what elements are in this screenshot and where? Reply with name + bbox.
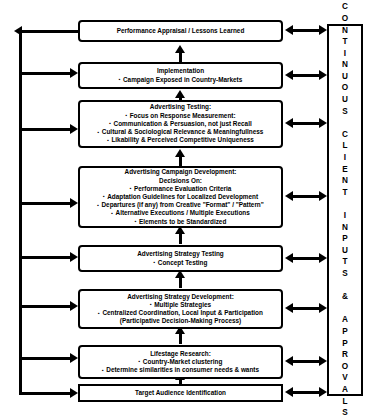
box-bullet: Adaptation Guidelines for Localized Deve… — [103, 193, 258, 201]
client-link-campaign-development — [285, 191, 327, 202]
box-bullet: Cultural & Sociological Relevance & Mean… — [98, 128, 264, 136]
flow-arrow-shaft-strategy-test-to-campaign-dev — [179, 233, 182, 244]
connector-shaft — [292, 29, 320, 32]
connector-shaft — [292, 391, 320, 394]
box-note: (Participative Decision-Making Process) — [120, 317, 241, 325]
client-link-strategy-development — [285, 303, 327, 314]
box-subtitle: Decisions On: — [159, 177, 202, 185]
box-bullet: Determine similarities in consumer needs… — [102, 366, 259, 374]
client-link-performance-appraisal — [285, 25, 327, 36]
box-lifestage-research[interactable]: Lifestage Research: Country-Market clust… — [78, 345, 283, 379]
box-implementation[interactable]: Implementation Campaign Exposed in Count… — [78, 62, 283, 89]
connector-shaft — [292, 195, 320, 198]
arrowhead-right — [319, 191, 327, 201]
box-bullet: Communication & Persuasion, not just Rec… — [109, 120, 251, 128]
client-link-advertising-testing — [285, 118, 327, 129]
box-bullet: Campaign Exposed in Country-Markets — [119, 76, 243, 84]
connector-shaft — [292, 122, 320, 125]
arrowhead-right — [319, 387, 327, 397]
arrowhead-right — [319, 253, 327, 263]
feedback-branch-advertising-testing-arrowhead — [70, 124, 78, 134]
flow-arrow-head-testing-to-implementation — [175, 90, 185, 98]
flowchart-diagram: Performance Appraisal / Lessons Learned … — [0, 0, 386, 419]
feedback-branch-strategy-testing — [19, 256, 73, 259]
box-performance-appraisal[interactable]: Performance Appraisal / Lessons Learned — [78, 20, 283, 42]
arrowhead-right — [319, 356, 327, 366]
arrowhead-right — [319, 70, 327, 80]
continuous-client-inputs-column[interactable]: C O N T I N U O U S C L I E N T I N P U … — [327, 24, 363, 396]
box-title: Advertising Strategy Development: — [127, 293, 234, 301]
box-bullet: Centralized Coordination, Local Input & … — [98, 309, 263, 317]
box-bullet: Elements to be Standardized — [135, 218, 227, 226]
feedback-branch-lifestage-research-arrowhead — [70, 353, 78, 363]
box-advertising-testing[interactable]: Advertising Testing: Focus on Response M… — [78, 100, 283, 148]
arrowhead-right — [319, 303, 327, 313]
feedback-branch-strategy-development — [19, 305, 73, 308]
client-link-target-audience — [285, 387, 327, 398]
connector-shaft — [292, 257, 320, 260]
box-title: Advertising Strategy Testing — [137, 250, 224, 258]
feedback-branch-implementation-arrowhead — [70, 68, 78, 78]
box-bullet: Country-Market clustering — [139, 358, 223, 366]
client-link-strategy-testing — [285, 253, 327, 264]
box-bullet: Alternative Executions / Multiple Execut… — [111, 209, 250, 217]
box-advertising-campaign-development[interactable]: Advertising Campaign Development: Decisi… — [78, 166, 283, 228]
feedback-loop-top-arrowhead — [14, 26, 22, 36]
arrowhead-right — [319, 25, 327, 35]
feedback-branch-campaign-development-arrowhead — [70, 198, 78, 208]
connector-shaft — [292, 74, 320, 77]
box-bullet: Performance Evaluation Criteria — [130, 185, 232, 193]
box-title: Lifestage Research: — [150, 350, 211, 358]
box-target-audience-identification[interactable]: Target Audience Identification — [78, 384, 283, 402]
flow-arrow-shaft-strategy-dev-to-strategy-test — [179, 277, 182, 288]
feedback-loop-spine — [19, 30, 22, 395]
box-advertising-strategy-development[interactable]: Advertising Strategy Development: Multip… — [78, 289, 283, 329]
connector-shaft — [292, 360, 320, 363]
flow-arrow-shaft-lifestage-to-strategy-dev — [179, 333, 182, 344]
feedback-branch-lifestage-research — [19, 357, 73, 360]
continuous-client-inputs-label: C O N T I N U O U S C L I E N T I N P U … — [342, 1, 348, 418]
box-title: Target Audience Identification — [135, 389, 226, 397]
box-bullet: Departures (if any) from Creative "Forma… — [97, 201, 264, 209]
feedback-loop-top-segment — [19, 30, 79, 33]
box-advertising-strategy-testing[interactable]: Advertising Strategy Testing Concept Tes… — [78, 245, 283, 272]
feedback-branch-advertising-testing — [19, 128, 73, 131]
box-bullet: Likability & Perceived Competitive Uniqu… — [107, 136, 254, 144]
client-link-implementation — [285, 70, 327, 81]
box-bullet: Focus on Response Measurement: — [125, 112, 235, 120]
box-title: Performance Appraisal / Lessons Learned — [117, 27, 245, 35]
box-title: Advertising Testing: — [150, 103, 211, 111]
flow-arrow-head-implementation-to-appraisal — [175, 45, 185, 53]
box-bullet: Multiple Strategies — [150, 301, 211, 309]
connector-shaft — [292, 307, 320, 310]
feedback-branch-target-audience — [19, 392, 73, 395]
flow-arrow-head-campaign-dev-to-testing — [175, 149, 185, 157]
feedback-branch-strategy-testing-arrowhead — [70, 252, 78, 262]
box-title: Implementation — [157, 67, 204, 75]
feedback-branch-strategy-development-arrowhead — [70, 301, 78, 311]
client-link-lifestage-research — [285, 356, 327, 367]
box-title: Advertising Campaign Development: — [125, 168, 237, 176]
feedback-branch-implementation — [19, 72, 73, 75]
arrowhead-right — [319, 118, 327, 128]
feedback-branch-target-audience-arrowhead — [70, 388, 78, 398]
feedback-branch-campaign-development — [19, 202, 73, 205]
box-bullet: Concept Testing — [154, 259, 208, 267]
